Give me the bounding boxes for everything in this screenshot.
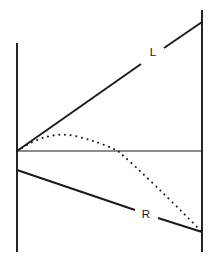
upper-ray-label: L <box>150 46 157 58</box>
lower-ray-label: R <box>142 208 151 220</box>
figure-background <box>0 0 215 272</box>
diagram-canvas: L R <box>0 0 215 272</box>
figure-container: L R <box>0 0 215 272</box>
